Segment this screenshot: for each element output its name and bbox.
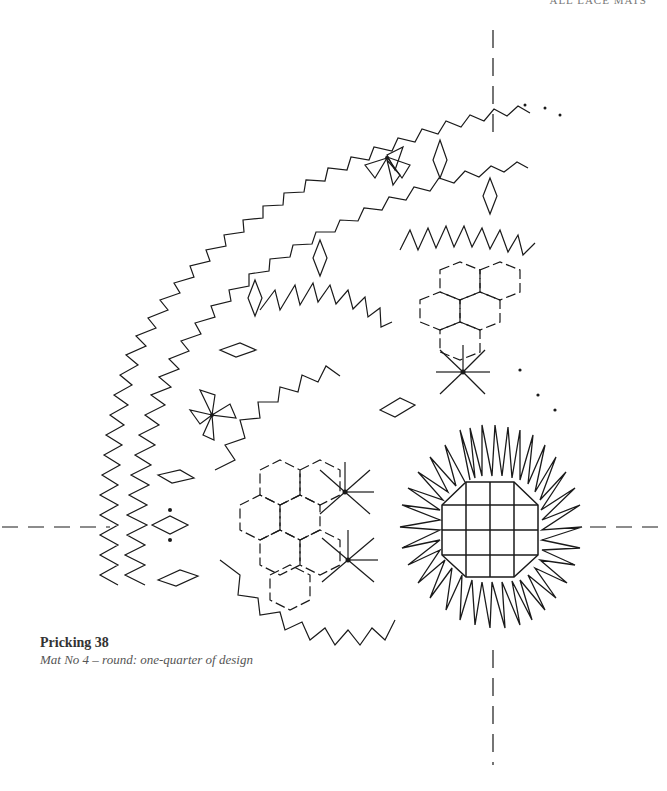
diamond-motif [152,516,188,534]
diamond-motif [158,570,198,586]
caption-subtitle: Mat No 4 – round: one-quarter of design [40,652,253,668]
center-square-grid [442,482,538,577]
spider-motif [322,530,378,582]
figure-caption: Pricking 38 Mat No 4 – round: one-quarte… [40,635,253,668]
radiating-stitches [400,425,582,628]
pin-holes [168,104,562,563]
diamond-motif [158,470,194,483]
diamond-motif [483,178,497,214]
diamond-motif [313,240,327,276]
hexagon-ground-upper [420,262,520,360]
hexagon-ground-lower [240,460,340,610]
second-zigzag-border [125,162,528,585]
diamond-motif [220,343,256,357]
inner-zigzag-arc-bottom [220,560,395,645]
diamond-motif [433,140,447,178]
diamond-motif [380,398,415,417]
diamond-motif [248,280,262,316]
lace-pricking-diagram [0,0,667,791]
inner-zigzag-arc-upper [260,283,392,327]
caption-title: Pricking 38 [40,635,253,651]
inner-zigzag-arc-right [400,226,535,255]
spider-motif [320,462,374,514]
